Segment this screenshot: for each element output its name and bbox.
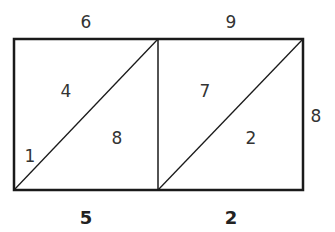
lattice-diagonal-1 [14, 39, 158, 190]
cell-1-upper-digit: 4 [61, 81, 72, 101]
cell-1-lower-digit: 8 [112, 128, 123, 148]
side-digit: 8 [311, 106, 322, 126]
left-carry-digit: 1 [25, 146, 36, 166]
top-digit-1: 6 [81, 12, 92, 32]
lattice-diagram: 6 9 8 4 8 7 2 1 5 2 [0, 0, 335, 232]
cell-2-lower-digit: 2 [246, 128, 257, 148]
lattice-diagonal-2 [158, 39, 303, 190]
cell-2-upper-digit: 7 [200, 81, 211, 101]
result-digit-1: 5 [80, 207, 93, 228]
result-digit-2: 2 [225, 207, 238, 228]
top-digit-2: 9 [226, 12, 237, 32]
